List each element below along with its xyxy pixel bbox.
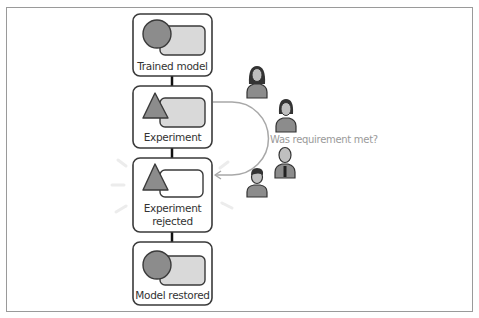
- workflow-diagram: Trained model Experiment Experiment reje…: [0, 0, 479, 318]
- stage-experiment: Experiment: [133, 86, 212, 148]
- person-icon-woman-long-hair: [247, 66, 267, 98]
- person-icon-man: [247, 168, 267, 197]
- stage-label-line2: rejected: [152, 215, 193, 227]
- stage-experiment-rejected: Experiment rejected: [133, 158, 212, 232]
- person-icon-woman: [276, 99, 296, 132]
- person-icon-man-tie: [275, 148, 295, 179]
- stage-label: Experiment: [144, 131, 202, 143]
- stage-label: Model restored: [135, 289, 209, 301]
- stage-model-restored: Model restored: [133, 242, 212, 305]
- question-text: Was requirement met?: [270, 134, 378, 145]
- stage-label-line1: Experiment: [144, 202, 202, 214]
- stage-trained-model: Trained model: [133, 14, 212, 76]
- stage-label: Trained model: [136, 60, 207, 72]
